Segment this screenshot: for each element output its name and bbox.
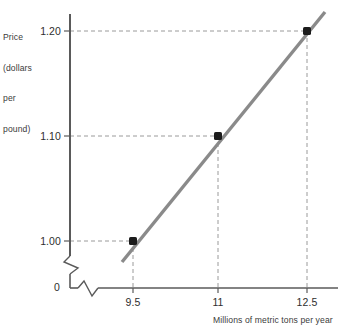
supply-curve-chart: Price (dollars per pound) 1.20 1.10 1.00…: [0, 0, 345, 333]
y-tick-label-1-10: 1.10: [27, 130, 61, 142]
y-axis-title-line-2: (dollars: [3, 63, 49, 73]
x-tick-label-12-5: 12.5: [287, 296, 327, 308]
x-tick-label-11: 11: [198, 296, 238, 308]
y-tick-label-1-20: 1.20: [27, 25, 61, 37]
data-point-marker-3: [303, 27, 311, 35]
chart-canvas: [0, 0, 345, 333]
data-point-marker-2: [214, 132, 222, 140]
y-axis-title-line-3: per: [3, 93, 49, 103]
origin-label: 0: [54, 281, 60, 293]
supply-curve-line: [122, 12, 325, 262]
y-tick-label-1-00: 1.00: [27, 235, 61, 247]
y-axis-break-mark: [64, 256, 78, 274]
x-tick-label-9-5: 9.5: [113, 296, 153, 308]
x-axis-title: Millions of metric tons per year: [213, 315, 333, 325]
x-axis-break-mark: [78, 281, 98, 296]
data-point-marker-1: [129, 237, 137, 245]
